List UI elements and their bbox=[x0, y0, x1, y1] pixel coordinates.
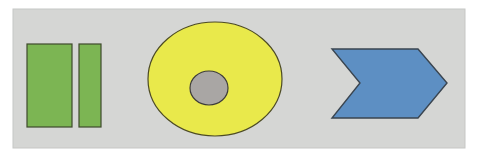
figure-root: Geometric shapes figure bbox=[0, 0, 477, 159]
green-rectangle-left[interactable] bbox=[27, 44, 72, 127]
green-rectangle-right[interactable] bbox=[79, 44, 101, 127]
shapes-canvas bbox=[0, 0, 477, 159]
gray-inner-circle[interactable] bbox=[190, 71, 228, 105]
